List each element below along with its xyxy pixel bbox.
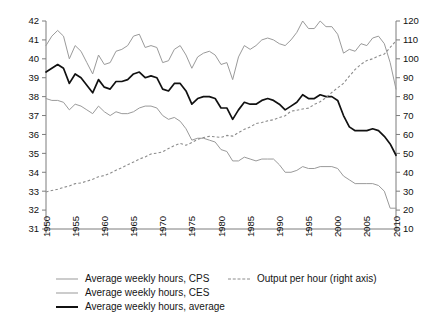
x-tick-label: 1970 (157, 216, 168, 237)
y-tick-label-left: 31 (28, 223, 39, 234)
legend-label-average: Average weekly hours, average (85, 300, 225, 314)
y-tick-label-right: 80 (403, 91, 414, 102)
y-tick-label-left: 39 (28, 72, 39, 83)
y-tick-label-left: 33 (28, 186, 39, 197)
x-tick-label: 1975 (186, 216, 197, 237)
x-tick-label: 1960 (99, 216, 110, 237)
series-line-average (46, 64, 396, 155)
y-tick-label-left: 42 (28, 15, 39, 26)
y-tick-label-right: 60 (403, 129, 414, 140)
y-tick-label-right: 110 (403, 34, 418, 45)
y-tick-label-left: 37 (28, 110, 39, 121)
legend-item-ces: Average weekly hours, CES (56, 286, 225, 300)
x-tick-label: 2000 (332, 216, 343, 237)
x-tick-label: 2010 (391, 216, 402, 237)
legend-item-output: Output per hour (right axis) (228, 272, 377, 286)
chart-container: 3132333435363738394041421020304050607080… (0, 0, 431, 323)
x-tick-label: 1965 (128, 216, 139, 237)
y-tick-label-right: 70 (403, 110, 414, 121)
legend-label-cps: Average weekly hours, CPS (85, 272, 209, 286)
legend-label-output: Output per hour (right axis) (257, 272, 377, 286)
y-tick-label-right: 90 (403, 72, 414, 83)
y-tick-label-left: 36 (28, 129, 39, 140)
y-tick-label-left: 34 (28, 167, 39, 178)
x-tick-label: 2005 (361, 216, 372, 237)
y-tick-label-left: 35 (28, 148, 39, 159)
y-tick-label-right: 120 (403, 15, 419, 26)
legend-item-average: Average weekly hours, average (56, 300, 225, 314)
x-tick-label: 1950 (41, 216, 52, 237)
y-tick-label-right: 20 (403, 204, 414, 215)
y-tick-label-right: 30 (403, 186, 414, 197)
legend-column-left: Average weekly hours, CPS Average weekly… (56, 272, 225, 314)
legend-column-right: Output per hour (right axis) (228, 272, 377, 286)
x-tick-label: 1990 (274, 216, 285, 237)
y-tick-label-right: 10 (403, 223, 414, 234)
x-tick-label: 1995 (303, 216, 314, 237)
legend-item-cps: Average weekly hours, CPS (56, 272, 225, 286)
y-tick-label-left: 41 (28, 34, 39, 45)
y-tick-label-left: 38 (28, 91, 39, 102)
y-tick-label-right: 50 (403, 148, 414, 159)
y-tick-label-left: 32 (28, 204, 39, 215)
x-tick-label: 1985 (245, 216, 256, 237)
chart-legend: Average weekly hours, CPS Average weekly… (56, 272, 431, 318)
x-tick-label: 1955 (70, 216, 81, 237)
y-tick-label-right: 100 (403, 53, 419, 64)
y-tick-label-right: 40 (403, 167, 414, 178)
x-tick-label: 1980 (216, 216, 227, 237)
legend-label-ces: Average weekly hours, CES (85, 286, 209, 300)
y-tick-label-left: 40 (28, 53, 39, 64)
